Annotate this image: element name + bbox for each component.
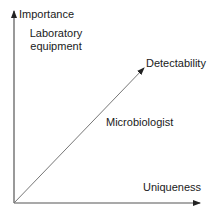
laboratory-equipment-line2: equipment — [22, 40, 90, 53]
diagonal-arrow-line — [14, 68, 144, 203]
microbiologist-label: Microbiologist — [106, 116, 173, 129]
laboratory-equipment-line1: Laboratory — [22, 27, 90, 40]
diagram-canvas: Importance Laboratory equipment Detectab… — [0, 0, 211, 214]
y-axis-label: Importance — [19, 8, 74, 21]
laboratory-equipment-label: Laboratory equipment — [22, 27, 90, 53]
x-axis-label: Uniqueness — [143, 181, 201, 194]
detectability-label: Detectability — [146, 57, 206, 70]
